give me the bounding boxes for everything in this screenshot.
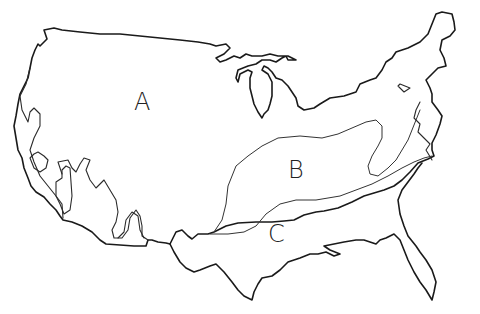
baja-inner-line	[56, 166, 72, 214]
california-inner-line	[30, 152, 48, 172]
region-label-b: B	[288, 158, 304, 182]
chesapeake-inner-line	[414, 102, 432, 160]
new-england-coast-line	[398, 84, 410, 92]
region-label-c: C	[268, 222, 285, 246]
region-label-a: A	[134, 90, 150, 114]
region-b-boundary	[214, 110, 420, 232]
us-border-outline	[14, 12, 455, 246]
us-outline-map	[0, 0, 480, 314]
